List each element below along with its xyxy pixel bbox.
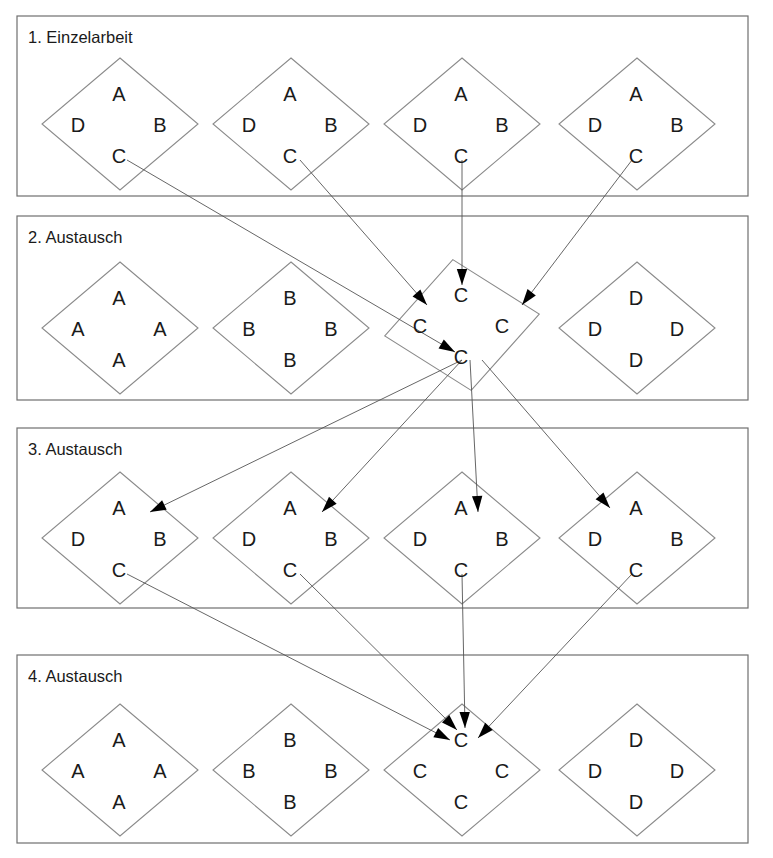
diamond-g4-4 [559, 704, 715, 836]
arrow-head-c2-3 [472, 496, 482, 512]
node-label-g1-3-bottom: C [454, 145, 468, 167]
arrow-head-c2-1 [150, 500, 167, 512]
node-label-g2-4-left: D [588, 318, 602, 340]
diamond-g1-1 [42, 58, 198, 190]
diamond-g3-1 [42, 472, 198, 604]
node-label-g4-1-top: A [112, 729, 126, 751]
node-label-g1-4-top: A [629, 83, 643, 105]
node-label-g2-2-right: B [324, 318, 337, 340]
node-label-g4-2-left: B [242, 760, 255, 782]
node-label-g4-2-top: B [283, 729, 296, 751]
node-label-g1-2-top: A [283, 83, 297, 105]
diamond-g4-1 [42, 704, 198, 836]
node-label-g4-2-right: B [324, 760, 337, 782]
connector-line-c3-2 [300, 574, 457, 730]
connector-line-c1-4 [522, 160, 632, 305]
connector-line-c2-1 [150, 360, 462, 512]
node-label-g2-3-top: C [454, 284, 468, 306]
node-label-g3-1-left: D [71, 528, 85, 550]
diamond-g1-2 [213, 58, 369, 190]
diamonds-layer [42, 58, 715, 836]
node-label-g3-1-right: B [153, 528, 166, 550]
arrow-head-c1-1 [439, 339, 455, 352]
node-label-g4-2-bottom: B [283, 791, 296, 813]
connector-line-c3-1 [127, 574, 450, 740]
node-label-g2-4-bottom: D [629, 349, 643, 371]
node-label-g3-1-top: A [112, 497, 126, 519]
node-label-g2-2-top: B [283, 287, 296, 309]
arrow-head-c1-3 [457, 269, 467, 285]
node-label-g1-1-bottom: C [112, 145, 126, 167]
frame-title-2: 2. Austausch [28, 228, 122, 246]
node-label-g3-4-top: A [629, 497, 643, 519]
node-label-g2-1-bottom: A [112, 349, 126, 371]
node-label-g2-2-left: B [242, 318, 255, 340]
node-label-g1-3-top: A [454, 83, 468, 105]
node-label-g4-1-left: A [71, 760, 85, 782]
node-label-g2-3-bottom: C [454, 346, 468, 368]
node-label-g4-4-left: D [588, 760, 602, 782]
node-label-g1-3-left: D [413, 114, 427, 136]
diamond-g4-2 [213, 704, 369, 836]
node-label-g3-3-right: B [495, 528, 508, 550]
frame-title-3: 3. Austausch [28, 440, 122, 458]
node-label-g3-2-right: B [324, 528, 337, 550]
frames-layer [17, 16, 748, 843]
arrow-head-c3-1 [433, 728, 450, 740]
group-puzzle-diagram: 1. EinzelarbeitABCDABCDABCDABCD2. Austau… [0, 0, 773, 858]
node-label-g1-1-top: A [112, 83, 126, 105]
connector-line-c1-2 [300, 160, 427, 305]
node-label-g4-3-bottom: C [454, 791, 468, 813]
diamond-g1-4 [559, 58, 715, 190]
frame-title-1: 1. Einzelarbeit [28, 28, 133, 46]
node-label-g3-1-bottom: C [112, 559, 126, 581]
node-label-g3-2-left: D [242, 528, 256, 550]
node-label-g3-2-top: A [283, 497, 297, 519]
diamond-g3-4 [559, 472, 715, 604]
node-label-g4-4-right: D [670, 760, 684, 782]
node-label-g3-3-top: A [454, 497, 468, 519]
node-label-g2-2-bottom: B [283, 349, 296, 371]
diamond-g2-1 [42, 262, 198, 394]
node-label-g2-4-right: D [670, 318, 684, 340]
node-label-g4-4-top: D [629, 729, 643, 751]
connector-line-c2-4 [482, 360, 610, 508]
node-label-g1-1-left: D [71, 114, 85, 136]
node-label-g3-4-left: D [588, 528, 602, 550]
node-label-g2-1-right: A [153, 318, 167, 340]
diamond-g4-3 [384, 704, 540, 836]
node-label-g4-4-bottom: D [629, 791, 643, 813]
node-label-g3-4-right: B [670, 528, 683, 550]
diamond-g3-2 [213, 472, 369, 604]
diagram-canvas: 1. EinzelarbeitABCDABCDABCDABCD2. Austau… [0, 0, 773, 858]
node-label-g3-3-bottom: C [454, 559, 468, 581]
node-label-g1-3-right: B [495, 114, 508, 136]
arrow-head-c3-3 [459, 712, 469, 728]
diamond-g2-2 [213, 262, 369, 394]
node-label-g4-3-top: C [454, 729, 468, 751]
node-label-g1-4-right: B [670, 114, 683, 136]
node-label-g1-4-left: D [588, 114, 602, 136]
diamond-g2-4 [559, 262, 715, 394]
node-label-g4-3-right: C [495, 760, 509, 782]
connections-layer [127, 160, 632, 740]
node-label-g2-3-right: C [495, 315, 509, 337]
node-label-g2-1-top: A [112, 287, 126, 309]
node-label-g3-3-left: D [413, 528, 427, 550]
connector-line-c1-1 [127, 160, 455, 352]
node-label-g1-1-right: B [153, 114, 166, 136]
node-label-g1-2-left: D [242, 114, 256, 136]
node-label-g3-2-bottom: C [283, 559, 297, 581]
node-label-g2-3-left: C [413, 315, 427, 337]
node-label-g1-2-right: B [324, 114, 337, 136]
node-label-g4-1-bottom: A [112, 791, 126, 813]
node-label-g3-4-bottom: C [629, 559, 643, 581]
node-label-g1-2-bottom: C [283, 145, 297, 167]
connector-line-c3-4 [478, 574, 632, 738]
node-label-g4-1-right: A [153, 760, 167, 782]
node-label-g4-3-left: C [413, 760, 427, 782]
arrow-head-c1-4 [522, 289, 536, 305]
connector-line-c2-3 [470, 360, 478, 512]
node-label-g1-4-bottom: C [629, 145, 643, 167]
node-label-g2-4-top: D [629, 287, 643, 309]
